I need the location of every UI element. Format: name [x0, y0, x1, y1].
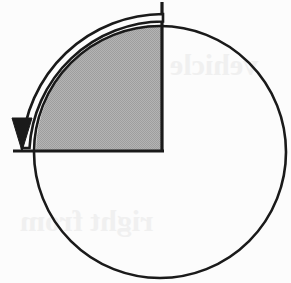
figure-container: vehicle right from [0, 0, 291, 283]
circle-sector-diagram [0, 0, 291, 283]
shaded-quarter-sector [36, 25, 162, 151]
